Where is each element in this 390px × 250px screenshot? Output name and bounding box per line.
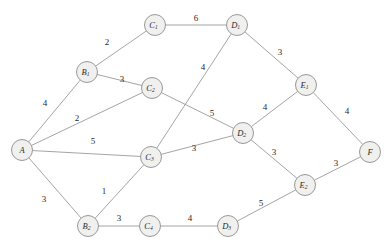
- node-subscript-B1: 1: [87, 71, 90, 77]
- graph-node-C1[interactable]: C1: [145, 15, 166, 36]
- edge-weight-D2-E2: 3: [272, 147, 277, 157]
- nodes-layer: AB1B2C1C2C3C4D1D2D3E1E2F: [12, 15, 381, 237]
- node-subscript-B2: 2: [88, 225, 91, 231]
- edge-weight-A-C3: 5: [91, 136, 96, 146]
- graph-node-D2[interactable]: D2: [233, 123, 254, 144]
- edge-weight-A-B2: 3: [42, 194, 47, 204]
- node-subscript-E1: 1: [306, 84, 309, 90]
- edge-weight-B2-C4: 3: [117, 213, 122, 223]
- graph-node-F[interactable]: F: [360, 142, 381, 163]
- graph-edge-D2-E1: [251, 91, 297, 126]
- node-subscript-D1: 1: [237, 24, 240, 30]
- graph-node-C3[interactable]: C3: [141, 147, 162, 168]
- edge-weight-D2-E1: 4: [263, 102, 268, 112]
- edge-weight-C3-B2: 1: [102, 186, 107, 196]
- graph-node-C2[interactable]: C2: [142, 78, 163, 99]
- node-subscript-D2: 2: [243, 132, 246, 138]
- node-label-A: A: [18, 145, 25, 155]
- graph-edge-A-B1: [29, 80, 81, 142]
- graph-node-D3[interactable]: D3: [218, 216, 239, 237]
- edges-layer: [29, 25, 363, 226]
- node-label-F: F: [366, 147, 373, 157]
- graph-edge-D1-C3: [157, 34, 232, 148]
- graph-node-E2[interactable]: E2: [295, 175, 316, 196]
- edge-weight-C2-D2: 5: [210, 108, 215, 118]
- edge-weight-C4-D3: 4: [188, 213, 193, 223]
- graph-edge-A-C3: [32, 151, 140, 157]
- graph-node-A[interactable]: A: [12, 140, 33, 161]
- edge-weight-D1-E1: 3: [278, 47, 283, 57]
- graph-edge-A-B2: [29, 158, 81, 218]
- graph-edge-D2-E2: [251, 140, 297, 179]
- graph-edge-E2-D3: [237, 190, 295, 221]
- graph-node-B2[interactable]: B2: [78, 216, 99, 237]
- node-subscript-C4: 4: [150, 225, 153, 231]
- edge-weight-A-C2: 2: [75, 113, 80, 123]
- edge-weight-C3-D2: 3: [192, 143, 197, 153]
- edge-weight-E1-F: 4: [345, 106, 350, 116]
- graph-edge-D1-E1: [245, 32, 298, 78]
- graph-node-E1[interactable]: E1: [296, 75, 317, 96]
- graph-node-D1[interactable]: D1: [227, 15, 248, 36]
- edge-weight-D1-C3: 4: [201, 62, 206, 72]
- edge-weight-E2-D3: 5: [259, 198, 264, 208]
- edge-weight-C1-D1: 6: [194, 13, 199, 23]
- graph-edge-C2-D2: [161, 93, 233, 129]
- node-subscript-E2: 2: [305, 184, 308, 190]
- graph-edge-C3-D2: [161, 136, 233, 155]
- edge-weight-A-B1: 4: [43, 98, 48, 108]
- graph-node-B1[interactable]: B1: [77, 62, 98, 83]
- edge-weight-E2-F: 3: [334, 158, 339, 168]
- weighted-graph: 4253236543314343534 AB1B2C1C2C3C4D1D2D3E…: [0, 0, 390, 250]
- node-subscript-C3: 3: [150, 156, 154, 162]
- node-subscript-C1: 1: [155, 24, 158, 30]
- edge-weight-B1-C2: 3: [120, 74, 125, 84]
- graph-node-C4[interactable]: C4: [140, 216, 161, 237]
- graph-edge-E1-F: [313, 93, 363, 145]
- graph-diagram-canvas: 4253236543314343534 AB1B2C1C2C3C4D1D2D3E…: [0, 0, 390, 250]
- node-subscript-D3: 3: [227, 225, 231, 231]
- edge-weight-B1-C1: 2: [105, 37, 110, 47]
- node-subscript-C2: 2: [152, 87, 155, 93]
- graph-edge-B1-C1: [96, 31, 147, 66]
